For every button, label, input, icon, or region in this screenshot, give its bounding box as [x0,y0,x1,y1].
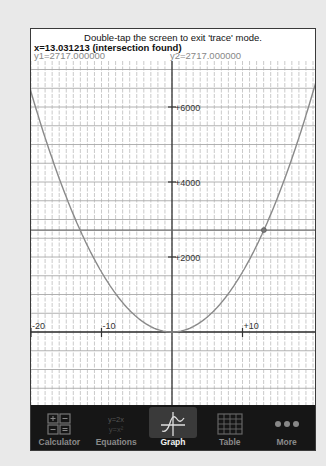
tab-label: Equations [96,437,137,447]
equations-icon: y=2x y=x² [96,411,136,437]
graph-plot[interactable]: +6000+4000+2000-20-10+10 [31,61,316,407]
app-screen: Double-tap the screen to exit 'trace' mo… [30,28,316,451]
trace-y2-value: y2=2717.000000 [170,50,241,61]
graph-canvas[interactable]: +6000+4000+2000-20-10+10 [31,61,316,407]
x-tick-label: +10 [244,321,259,331]
calculator-icon [39,411,79,437]
tab-graph[interactable]: Graph [145,405,202,450]
tab-label: Calculator [39,437,81,447]
tab-label: Table [219,437,241,447]
trace-header: Double-tap the screen to exit 'trace' mo… [31,29,315,57]
tab-more[interactable]: More [258,405,315,450]
x-tick-label: -10 [103,321,116,331]
graph-icon [153,411,193,437]
x-tick-label: -20 [32,321,45,331]
table-icon [210,411,250,437]
trace-y1-value: y1=2717.000000 [34,50,105,61]
tab-bar: Calculator y=2x y=x² Equations Graph [31,405,315,450]
tab-label: Graph [160,437,185,447]
tab-label: More [276,437,296,447]
tab-table[interactable]: Table [201,405,258,450]
y-tick-label: +4000 [175,178,200,188]
tab-calculator[interactable]: Calculator [31,405,88,450]
tab-equations[interactable]: y=2x y=x² Equations [88,405,145,450]
y-tick-label: +2000 [175,253,200,263]
svg-text:y=x²: y=x² [109,425,124,434]
trace-point-marker [261,228,266,233]
more-icon [267,411,307,437]
y-tick-label: +6000 [175,103,200,113]
svg-text:y=2x: y=2x [108,415,124,424]
